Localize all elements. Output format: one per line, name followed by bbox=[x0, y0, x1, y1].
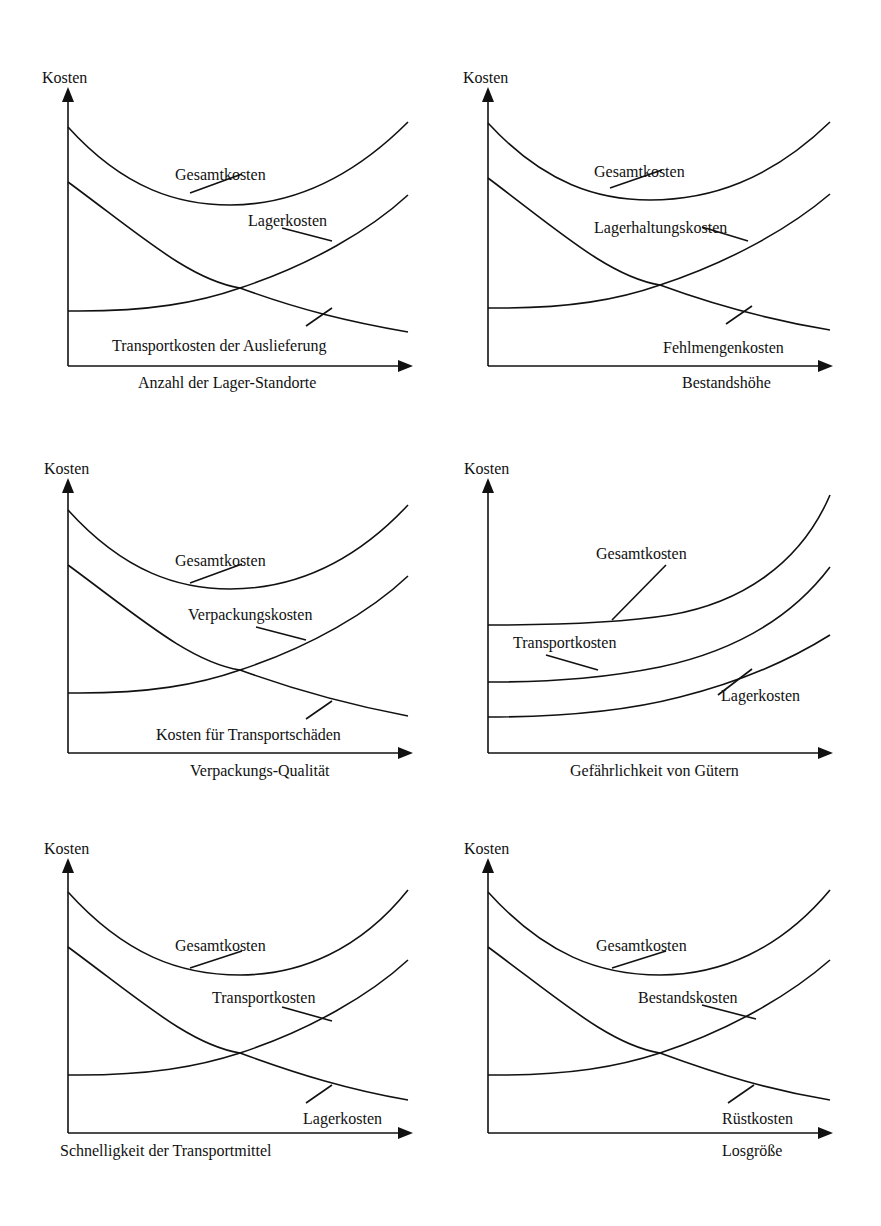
x-axis-arrow-icon bbox=[818, 1127, 833, 1139]
chart-plot bbox=[440, 835, 850, 1195]
curve-gesamtkosten bbox=[68, 505, 408, 589]
curve-gesamtkosten bbox=[68, 890, 408, 975]
series-label-ruest: Rüstkosten bbox=[722, 1111, 793, 1127]
curve-bestandskosten bbox=[488, 960, 830, 1075]
x-axis-arrow-icon bbox=[398, 1127, 413, 1139]
series-label-transport: Transportkosten bbox=[212, 990, 315, 1006]
leader-lager bbox=[282, 228, 332, 241]
x-axis-arrow-icon bbox=[398, 747, 413, 759]
leader-fehlmengen bbox=[726, 306, 752, 324]
series-label-gesamt: Gesamtkosten bbox=[594, 164, 685, 180]
leader-transportschaeden bbox=[306, 701, 332, 719]
curve-gesamtkosten bbox=[488, 122, 830, 200]
series-label-lagerhaltung: Lagerhaltungskosten bbox=[594, 220, 727, 236]
series-label-gesamt: Gesamtkosten bbox=[596, 938, 687, 954]
chart-plot bbox=[30, 455, 440, 815]
chart-verpackungs-qualitaet: Kosten Gesamtkosten Verpackungskosten Ko… bbox=[30, 455, 440, 815]
x-axis-label: Schnelligkeit der Transportmittel bbox=[60, 1143, 272, 1159]
chart-losgroesse: Kosten Gesamtkosten Bestandskosten Rüstk… bbox=[440, 835, 850, 1195]
leader-lager bbox=[306, 1085, 332, 1103]
series-label-gesamt: Gesamtkosten bbox=[175, 553, 266, 569]
chart-plot bbox=[440, 455, 850, 815]
x-axis-arrow-icon bbox=[818, 747, 833, 759]
leader-verpackung bbox=[256, 627, 306, 640]
series-label-transportschaeden: Kosten für Transportschäden bbox=[156, 727, 341, 743]
series-label-fehlmengen: Fehlmengenkosten bbox=[663, 340, 784, 356]
curve-lagerhaltungskosten bbox=[488, 194, 830, 308]
y-axis-label: Kosten bbox=[44, 461, 89, 477]
y-axis-arrow-icon bbox=[62, 478, 74, 493]
series-label-verpackung: Verpackungskosten bbox=[188, 607, 312, 623]
series-label-transport: Transportkosten der Auslieferung bbox=[112, 338, 327, 354]
y-axis-label: Kosten bbox=[464, 461, 509, 477]
x-axis-label: Bestandshöhe bbox=[682, 375, 771, 391]
y-axis-arrow-icon bbox=[62, 87, 74, 102]
leader-transport bbox=[282, 1007, 332, 1021]
curve-transportkosten bbox=[68, 960, 408, 1075]
curve-ruestkosten bbox=[488, 947, 830, 1100]
curve-gesamtkosten bbox=[488, 890, 830, 975]
curve-lagerkosten bbox=[68, 947, 408, 1100]
curve-transportschaeden bbox=[68, 565, 408, 716]
series-label-gesamt: Gesamtkosten bbox=[175, 938, 266, 954]
x-axis-label: Gefährlichkeit von Gütern bbox=[570, 763, 739, 779]
leader-bestand bbox=[702, 1005, 756, 1019]
x-axis-arrow-icon bbox=[818, 360, 833, 372]
chart-lager-standorte: Kosten Gesamtkosten Lagerkosten Transpor… bbox=[30, 70, 440, 430]
chart-bestandshoehe: Kosten Gesamtkosten Lagerhaltungskosten … bbox=[440, 70, 850, 430]
leader-transport bbox=[546, 655, 598, 670]
y-axis-label: Kosten bbox=[464, 841, 509, 857]
x-axis-label: Anzahl der Lager-Standorte bbox=[138, 375, 316, 391]
chart-gefaehrlichkeit: Kosten Gesamtkosten Transportkosten Lage… bbox=[440, 455, 850, 815]
y-axis-arrow-icon bbox=[482, 478, 494, 493]
curve-lagerkosten bbox=[68, 195, 408, 311]
leader-gesamt bbox=[612, 565, 666, 620]
y-axis-arrow-icon bbox=[482, 87, 494, 102]
series-label-lager: Lagerkosten bbox=[721, 688, 800, 704]
x-axis-label: Verpackungs-Qualität bbox=[190, 763, 330, 779]
y-axis-label: Kosten bbox=[42, 70, 87, 86]
curve-verpackungskosten bbox=[68, 576, 408, 693]
chart-plot bbox=[440, 70, 850, 430]
series-label-gesamt: Gesamtkosten bbox=[596, 546, 687, 562]
x-axis-label: Losgröße bbox=[722, 1143, 782, 1159]
y-axis-label: Kosten bbox=[463, 70, 508, 86]
chart-plot bbox=[30, 835, 440, 1195]
series-label-lager: Lagerkosten bbox=[248, 213, 327, 229]
series-label-gesamt: Gesamtkosten bbox=[175, 167, 266, 183]
y-axis-label: Kosten bbox=[44, 841, 89, 857]
chart-schnelligkeit: Kosten Gesamtkosten Transportkosten Lage… bbox=[30, 835, 440, 1195]
x-axis-arrow-icon bbox=[398, 360, 413, 372]
series-label-transport: Transportkosten bbox=[513, 635, 616, 651]
series-label-lager: Lagerkosten bbox=[303, 1111, 382, 1127]
y-axis-arrow-icon bbox=[62, 858, 74, 873]
series-label-bestand: Bestandskosten bbox=[638, 990, 738, 1006]
curve-gesamtkosten bbox=[68, 122, 408, 205]
y-axis-arrow-icon bbox=[482, 858, 494, 873]
leader-ruest bbox=[728, 1085, 754, 1103]
